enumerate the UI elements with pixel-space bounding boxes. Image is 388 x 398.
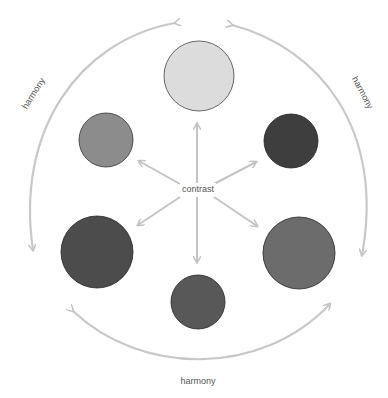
harmony-label-left: harmony (20, 75, 47, 110)
circle-lower-left (61, 216, 133, 288)
harmony-label-right: harmony (350, 75, 376, 111)
color-harmony-diagram: contrast harmony harmony harmony (0, 0, 388, 398)
contrast-label: contrast (182, 184, 215, 194)
circle-lower-right (263, 217, 335, 289)
circle-bottom (171, 275, 225, 329)
circle-upper-left (79, 113, 133, 167)
harmony-label-bottom: harmony (180, 376, 216, 386)
circle-top (164, 41, 234, 111)
circle-upper-right (264, 114, 318, 168)
